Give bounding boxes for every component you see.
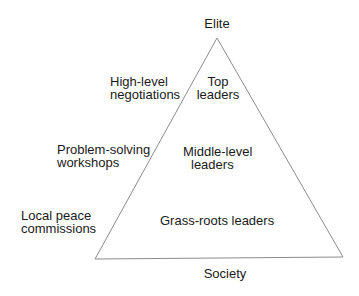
level-top-line2: leaders: [190, 88, 246, 101]
level-grass-roots-leaders: Grass-roots leaders: [160, 214, 274, 227]
level-middle-leaders: Middle-level leaders: [183, 145, 252, 171]
base-label-society: Society: [200, 267, 250, 280]
level-grassroots-line1: Grass-roots leaders: [160, 214, 274, 227]
approach-1-line2: negotiations: [110, 88, 180, 101]
approach-problem-solving-workshops: Problem-solving workshops: [57, 143, 150, 169]
apex-label-elite: Elite: [197, 17, 237, 30]
approach-3-line2: commissions: [21, 222, 96, 235]
approach-local-peace-commissions: Local peace commissions: [21, 209, 96, 235]
pyramid-diagram: Elite Top leaders High-level negotiation…: [0, 0, 359, 296]
level-middle-line2: leaders: [183, 158, 252, 171]
level-top-leaders: Top leaders: [190, 75, 246, 101]
base-label-text: Society: [200, 267, 250, 280]
apex-label-text: Elite: [197, 17, 237, 30]
approach-2-line2: workshops: [57, 156, 150, 169]
approach-high-level-negotiations: High-level negotiations: [110, 75, 180, 101]
pyramid-triangle: [0, 0, 359, 296]
